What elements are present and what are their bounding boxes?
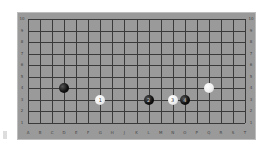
- grid-col-line: [161, 19, 162, 123]
- grid-col-line: [124, 19, 125, 123]
- column-label: R: [219, 131, 222, 135]
- grid-col-line: [112, 19, 113, 123]
- grid-col-line: [221, 19, 222, 123]
- white-stone: 3: [168, 95, 178, 105]
- row-label-left: 4: [21, 86, 24, 90]
- row-label-left: 2: [21, 109, 24, 113]
- grid-col-line: [88, 19, 89, 123]
- row-label-right: 7: [250, 52, 253, 56]
- grid-col-line: [233, 19, 234, 123]
- grid-col-line: [137, 19, 138, 123]
- row-label-left: 3: [21, 98, 24, 102]
- row-label-left: 5: [21, 75, 24, 79]
- row-label-left: 9: [21, 29, 24, 33]
- row-label-left: 6: [21, 63, 24, 67]
- row-label-left: 8: [21, 40, 24, 44]
- row-label-right: 2: [250, 109, 253, 113]
- grid-col-line: [209, 19, 210, 123]
- column-label: J: [124, 131, 125, 135]
- grid-col-line: [173, 19, 174, 123]
- column-label: B: [39, 131, 42, 135]
- column-label: C: [51, 131, 54, 135]
- column-label: T: [244, 131, 246, 135]
- row-label-right: 6: [250, 63, 253, 67]
- grid-col-line: [100, 19, 101, 123]
- grid-col-line: [64, 19, 65, 123]
- corner-mark: [3, 131, 7, 139]
- column-label: E: [75, 131, 78, 135]
- grid-col-line: [52, 19, 53, 123]
- column-label: P: [196, 131, 198, 135]
- column-label: H: [111, 131, 114, 135]
- row-label-right: 5: [250, 75, 253, 79]
- row-label-right: 8: [250, 40, 253, 44]
- row-label-right: 1: [250, 121, 253, 125]
- black-stone: 2: [144, 95, 154, 105]
- column-label: S: [232, 131, 235, 135]
- column-label: K: [135, 131, 138, 135]
- column-label: G: [99, 131, 102, 135]
- column-label: F: [87, 131, 89, 135]
- grid-col-line: [149, 19, 150, 123]
- column-label: L: [147, 131, 149, 135]
- grid-col-line: [40, 19, 41, 123]
- row-label-right: 10: [248, 17, 253, 21]
- column-label: Q: [207, 131, 210, 135]
- grid-col-line: [185, 19, 186, 123]
- grid-row-line: [28, 123, 245, 124]
- grid-col-line: [245, 19, 246, 123]
- grid-col-line: [76, 19, 77, 123]
- black-stone: 4: [180, 95, 190, 105]
- row-label-right: 4: [250, 86, 253, 90]
- white-stone: [204, 83, 214, 93]
- row-label-right: 3: [250, 98, 253, 102]
- column-label: M: [159, 131, 162, 135]
- grid-col-line: [197, 19, 198, 123]
- white-stone: 1: [95, 95, 105, 105]
- column-label: N: [171, 131, 174, 135]
- column-label: D: [63, 131, 66, 135]
- row-label-left: 7: [21, 52, 24, 56]
- row-label-left: 10: [19, 17, 24, 21]
- row-label-right: 9: [250, 29, 253, 33]
- column-label: A: [27, 131, 30, 135]
- row-label-left: 1: [21, 121, 24, 125]
- column-label: O: [183, 131, 186, 135]
- grid-col-line: [28, 19, 29, 123]
- black-stone: [59, 83, 69, 93]
